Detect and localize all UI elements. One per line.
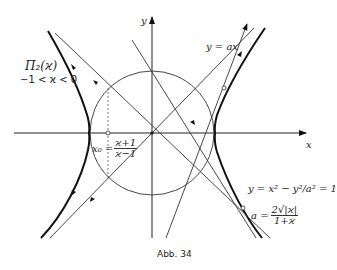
- arrow-left-line-top: [93, 80, 98, 85]
- x-axis-label: x: [306, 140, 312, 150]
- figure-caption: Abb. 34: [157, 250, 192, 259]
- a-fraction: 2√|ϰ| 1+ϰ: [271, 205, 299, 226]
- arrow-left-branch-bottom: [71, 190, 76, 196]
- point-tangent-upper: [222, 86, 226, 90]
- tangent-line: [166, 24, 247, 238]
- curve-range-label: −1 < ϰ < 0: [20, 75, 77, 85]
- x0-lhs: x₀ =: [92, 144, 113, 154]
- arrow-diag-mid: [190, 120, 195, 125]
- point-x0: [106, 131, 110, 135]
- diagonal-line-2: [132, 40, 256, 238]
- x0-fraction: ϰ+1 ϰ−1: [114, 138, 137, 159]
- origin-point: [150, 131, 153, 134]
- a-formula: a = 2√|ϰ| 1+ϰ: [251, 205, 298, 226]
- arrow-left-branch-top: [71, 64, 76, 70]
- curve-name-label: Π₂(ϰ): [25, 60, 57, 72]
- line-label-y-ax: y = ax: [206, 42, 238, 52]
- hyperbola-equation: y = x² − y²/a² = 1: [248, 184, 337, 194]
- arrow-left-line-bottom: [90, 197, 95, 202]
- y-axis-label: y: [141, 16, 147, 26]
- x0-denominator: ϰ−1: [115, 149, 136, 159]
- x0-formula: x₀ = ϰ+1 ϰ−1: [92, 138, 137, 159]
- a-denominator: 1+ϰ: [274, 216, 295, 226]
- a-lhs: a =: [251, 211, 269, 221]
- point-tangent-lower: [241, 206, 245, 210]
- diagonal-line-1: [55, 33, 270, 238]
